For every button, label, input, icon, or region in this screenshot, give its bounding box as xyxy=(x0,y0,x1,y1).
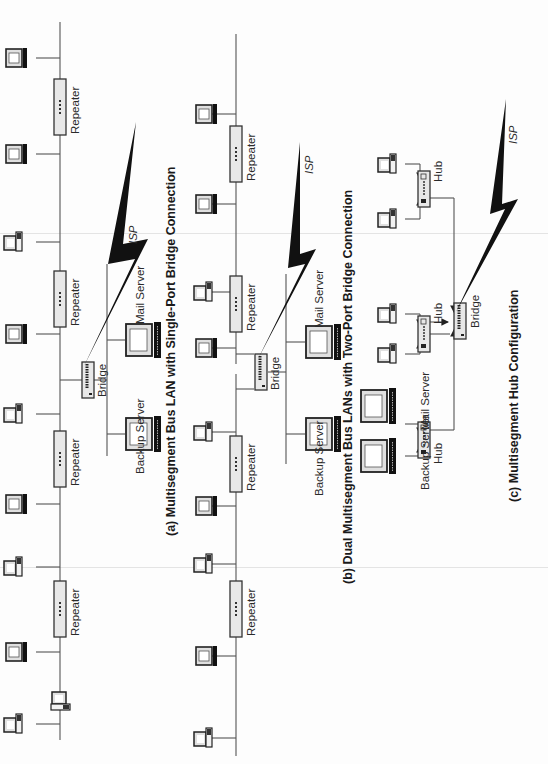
panel-c-caption: (c) Multisegment Hub Configuration xyxy=(508,290,521,502)
panel-b-repeater-label: Repeater xyxy=(246,444,258,491)
panel-a-mail-server xyxy=(126,322,161,358)
panel-b-bridge xyxy=(255,354,267,390)
network-diagram-figure: Repeater Repeater Repeater Repeater Brid… xyxy=(0,0,548,764)
panel-c-bridge xyxy=(454,303,466,339)
panel-a-backup-server-label: Backup Server xyxy=(135,399,147,474)
panel-b-repeater-label: Repeater xyxy=(246,589,258,636)
panel-a-repeater-label: Repeater xyxy=(70,439,82,486)
panel-c-hub-middle xyxy=(418,316,430,352)
panel-b-isp-label: ISP xyxy=(304,155,316,174)
panel-c-bridge-label: Bridge xyxy=(470,295,482,328)
panel-b-bridge-label: Bridge xyxy=(270,357,282,390)
panel-c-hub-label: Hub xyxy=(433,161,445,182)
panel-c-mail-server-label: Mail Server xyxy=(420,372,432,430)
panel-c-isp-label: ISP xyxy=(508,125,520,144)
panel-b-repeater-label: Repeater xyxy=(246,284,258,331)
panel-c-hub-label: Hub xyxy=(433,443,445,464)
panel-b-mail-server-label: Mail Server xyxy=(314,270,326,328)
panel-a-isp-label: ISP xyxy=(128,225,140,244)
rotated-canvas: Repeater Repeater Repeater Repeater Brid… xyxy=(0,0,548,764)
panel-b-caption: (b) Dual Multisegment Bus LANs with Two-… xyxy=(342,190,355,584)
panel-a-workstations xyxy=(4,48,27,733)
panel-a-devices xyxy=(51,692,70,710)
panel-c-hub-right xyxy=(418,171,430,207)
panel-b-bus-lans xyxy=(212,34,305,756)
panel-b-backup-server-label: Backup Server xyxy=(314,421,326,496)
panel-c-hub-label: Hub xyxy=(433,303,445,324)
panel-a-caption: (a) Multisegment Bus LAN with Single-Por… xyxy=(165,167,178,536)
panel-a-bridge-label: Bridge xyxy=(97,364,109,397)
panel-a-bridge xyxy=(82,362,94,398)
panel-a-mail-server-label: Mail Server xyxy=(135,266,147,324)
panel-b-repeater-label: Repeater xyxy=(246,134,258,181)
panel-b-workstations xyxy=(194,104,217,747)
panel-b-mail-server xyxy=(306,324,341,360)
panel-a-repeater-label: Repeater xyxy=(70,87,82,134)
panel-c-endpoints xyxy=(361,154,396,474)
panel-a-repeater-label: Repeater xyxy=(70,279,82,326)
panel-a-repeater-label: Repeater xyxy=(70,589,82,636)
